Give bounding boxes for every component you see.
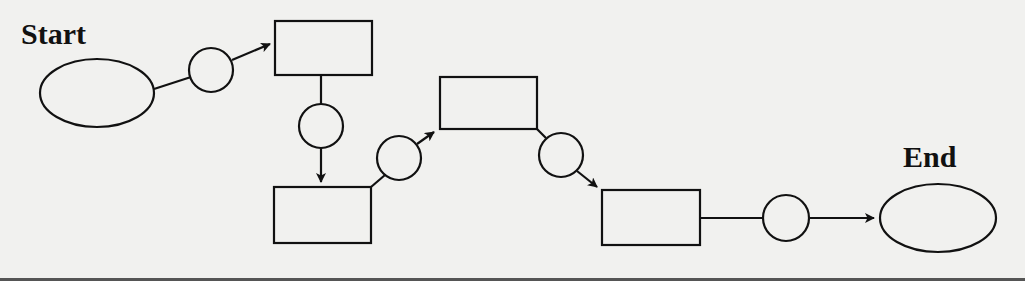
process-circle-2 (299, 104, 343, 148)
edge-start-c1 (154, 77, 191, 89)
process-box-2 (274, 187, 371, 243)
start-label: Start (21, 17, 86, 50)
process-circle-4 (539, 133, 583, 177)
edge-b3-c4 (537, 129, 546, 138)
flowchart-diagram: Start End (0, 0, 1025, 281)
process-box-4 (602, 190, 700, 245)
process-box-1 (275, 21, 372, 75)
edge-c1-b1 (232, 44, 270, 60)
process-circle-1 (189, 48, 233, 92)
edge-c3-b3 (417, 132, 434, 144)
edge-c4-b4 (577, 171, 597, 187)
process-circle-3 (377, 136, 421, 180)
process-circle-5 (763, 195, 809, 241)
process-box-3 (440, 77, 537, 129)
edge-b2-c3 (371, 175, 385, 187)
end-label: End (903, 140, 957, 173)
end-node (880, 184, 996, 252)
start-node (40, 59, 154, 127)
